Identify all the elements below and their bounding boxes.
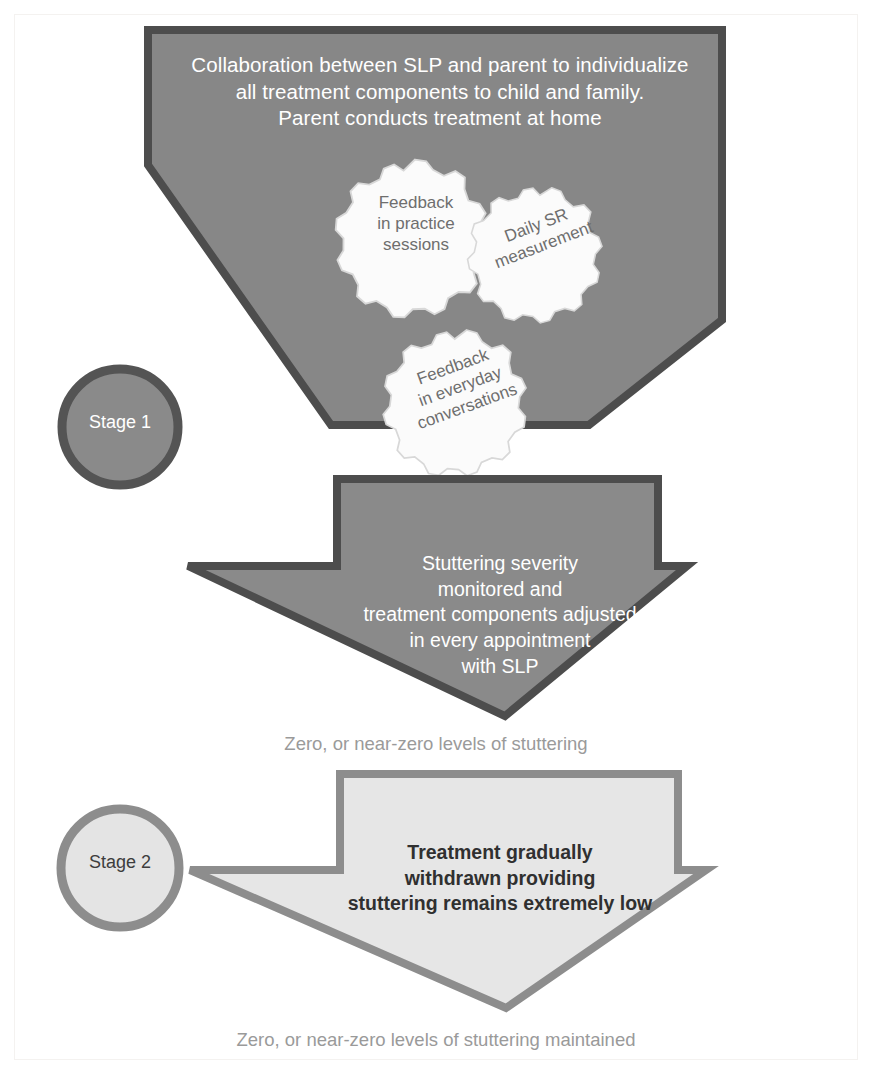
caption-zero-stuttering-maintained: Zero, or near-zero levels of stuttering … xyxy=(0,1029,872,1051)
funnel-label: Collaboration between SLP and parent to … xyxy=(170,52,710,132)
caption-zero-stuttering: Zero, or near-zero levels of stuttering xyxy=(0,733,872,755)
diagram-canvas: Collaboration between SLP and parent to … xyxy=(0,0,872,1074)
stage-1-label: Stage 1 xyxy=(40,412,200,433)
stage-2-label: Stage 2 xyxy=(40,852,200,873)
gear-label-feedback-practice-sessions: Feedback in practice sessions xyxy=(345,192,487,255)
stage-2-arrow-label: Treatment gradually withdrawn providing … xyxy=(300,840,700,917)
stage-1-arrow-label: Stuttering severity monitored and treatm… xyxy=(305,551,695,680)
